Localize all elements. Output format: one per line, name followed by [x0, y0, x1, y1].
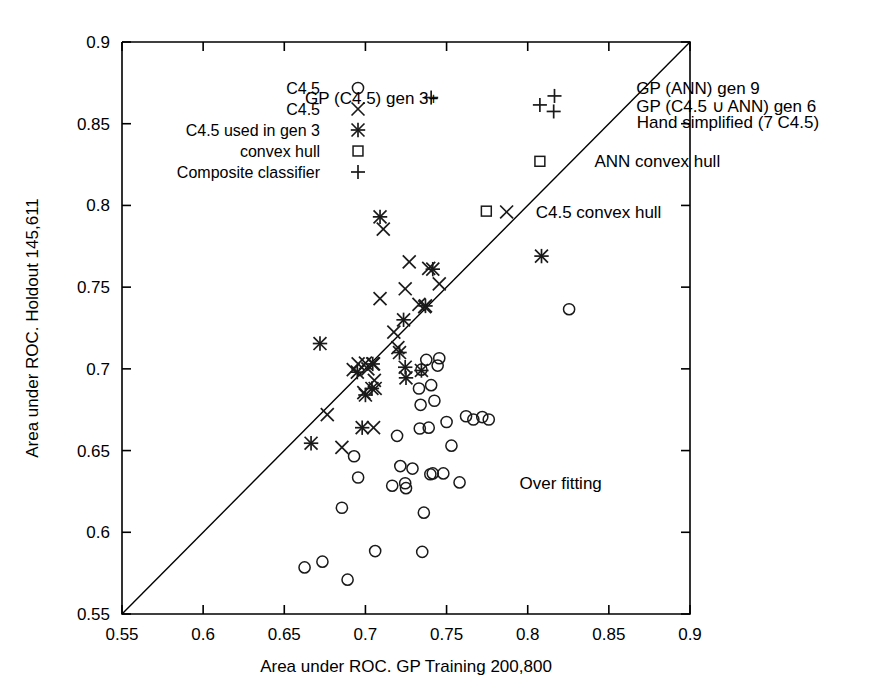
- data-point-cross: [321, 408, 334, 421]
- data-point-circle: [460, 411, 471, 422]
- x-tick-label: 0.65: [268, 625, 301, 644]
- data-point-plus: [533, 98, 547, 112]
- data-point-star: [304, 436, 318, 450]
- series-circle: [299, 304, 575, 586]
- legend-item: C4.5 used in gen 3: [186, 122, 366, 139]
- data-point-circle: [391, 430, 402, 441]
- data-point-cross: [387, 326, 400, 339]
- data-point-star: [418, 299, 432, 313]
- data-point-star: [392, 345, 406, 359]
- data-point-square: [481, 206, 491, 216]
- legend-label: convex hull: [240, 143, 320, 160]
- x-tick-label: 0.8: [516, 625, 540, 644]
- y-tick-label: 0.85: [77, 115, 110, 134]
- data-point-cross: [433, 277, 446, 290]
- annotation-label: Over fitting: [520, 474, 602, 493]
- y-tick-label: 0.6: [86, 523, 110, 542]
- x-tick-label: 0.9: [678, 625, 702, 644]
- y-tick-label: 0.9: [86, 33, 110, 52]
- data-point-cross: [335, 441, 348, 454]
- x-tick-label: 0.7: [354, 625, 378, 644]
- annotation-label: GP (ANN) gen 9: [636, 79, 759, 98]
- x-tick-label: 0.85: [592, 625, 625, 644]
- data-point-square: [535, 156, 545, 166]
- data-point-circle: [438, 468, 449, 479]
- data-point-star: [350, 365, 364, 379]
- data-point-circle: [353, 472, 364, 483]
- legend-label: Composite classifier: [177, 164, 321, 181]
- data-point-circle: [407, 463, 418, 474]
- legend-marker-square: [353, 146, 363, 156]
- legend-item: Composite classifier: [177, 164, 365, 181]
- data-point-circle: [426, 380, 437, 391]
- data-point-plus: [547, 104, 561, 118]
- annotations: GP (C4.5) gen 3+GP (ANN) gen 9GP (C4.5 ∪…: [305, 79, 819, 493]
- y-tick-label: 0.8: [86, 196, 110, 215]
- data-point-circle: [336, 502, 347, 513]
- data-point-circle: [446, 440, 457, 451]
- annotation-label: ANN convex hull: [595, 152, 721, 171]
- y-tick-label: 0.65: [77, 442, 110, 461]
- data-point-star: [534, 249, 548, 263]
- legend-item: convex hull: [240, 143, 363, 160]
- annotation-label: GP (C4.5) gen 3+: [305, 89, 438, 108]
- data-point-cross: [399, 282, 412, 295]
- x-tick-label: 0.55: [105, 625, 138, 644]
- x-tick-label: 0.6: [191, 625, 215, 644]
- data-point-circle: [441, 416, 452, 427]
- y-tick-label: 0.7: [86, 360, 110, 379]
- data-point-cross: [374, 292, 387, 305]
- data-point-star: [426, 262, 440, 276]
- data-point-star: [313, 336, 327, 350]
- data-point-cross: [403, 255, 416, 268]
- y-tick-label: 0.75: [77, 278, 110, 297]
- data-point-star: [373, 210, 387, 224]
- x-tick-label: 0.75: [430, 625, 463, 644]
- data-point-circle: [483, 414, 494, 425]
- data-point-star: [396, 313, 410, 327]
- chart-root: 0.550.60.650.70.750.80.850.90.550.60.650…: [0, 0, 877, 694]
- data-point-circle: [434, 353, 445, 364]
- y-axis-title: Area under ROC. Holdout 145,611: [23, 198, 42, 458]
- legend-marker-plus: [351, 165, 365, 179]
- data-point-circle: [317, 556, 328, 567]
- data-point-circle: [418, 507, 429, 518]
- data-point-circle: [413, 383, 424, 394]
- data-point-circle: [429, 395, 440, 406]
- y-tick-label: 0.55: [77, 605, 110, 624]
- data-point-cross: [500, 205, 513, 218]
- data-point-star: [355, 420, 369, 434]
- data-point-star: [365, 381, 379, 395]
- data-point-circle: [387, 480, 398, 491]
- data-point-circle: [454, 477, 465, 488]
- legend-marker-star: [351, 123, 365, 137]
- data-point-plus: [547, 89, 561, 103]
- annotation-label: Hand simplified (7 C4.5): [637, 113, 819, 132]
- data-point-circle: [299, 562, 310, 573]
- data-point-circle: [348, 451, 359, 462]
- data-point-circle: [395, 461, 406, 472]
- annotation-label: C4.5 convex hull: [536, 203, 662, 222]
- data-point-circle: [415, 399, 426, 410]
- series-plus: [424, 89, 561, 119]
- data-point-circle: [421, 354, 432, 365]
- legend-label: C4.5 used in gen 3: [186, 122, 320, 139]
- x-axis-title: Area under ROC. GP Training 200,800: [260, 657, 552, 676]
- data-points: [299, 89, 575, 585]
- data-point-star: [414, 363, 428, 377]
- data-point-circle: [370, 546, 381, 557]
- data-point-cross: [377, 223, 390, 236]
- data-point-circle: [342, 574, 353, 585]
- data-point-circle: [564, 304, 575, 315]
- data-point-star: [399, 371, 413, 385]
- data-point-star: [366, 357, 380, 371]
- scatter-plot: 0.550.60.650.70.750.80.850.90.550.60.650…: [0, 0, 877, 694]
- data-point-circle: [432, 360, 443, 371]
- data-point-circle: [417, 546, 428, 557]
- series-star: [304, 210, 549, 451]
